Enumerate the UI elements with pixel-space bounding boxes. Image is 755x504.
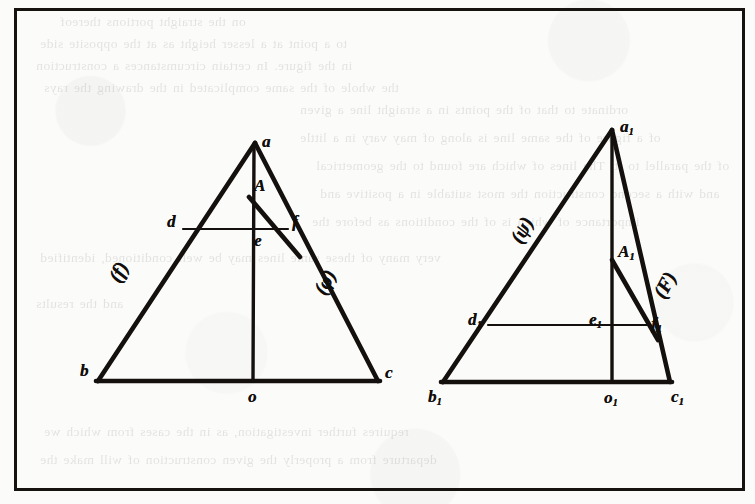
label-point-d1-sub: 1: [477, 319, 482, 330]
label-point-e1-sub: 1: [597, 319, 602, 330]
label-point-o1: o1: [604, 389, 618, 409]
label-point-o1-sub: 1: [613, 397, 618, 408]
label-point-A1: A1: [618, 243, 634, 263]
label-point-d1: d1: [468, 311, 482, 331]
label-point-c: c: [385, 364, 393, 381]
label-point-A1-sub: 1: [629, 251, 634, 262]
label-point-b: b: [80, 362, 89, 379]
label-point-c1-sub: 1: [679, 396, 684, 407]
label-point-A1-base: A: [618, 242, 629, 261]
label-point-f1: f1: [651, 315, 662, 335]
label-point-f1-sub: 1: [657, 323, 662, 334]
label-point-a1-sub: 1: [629, 126, 634, 137]
label-point-a: a: [262, 133, 271, 150]
label-point-c1-base: c: [671, 387, 679, 406]
label-point-e1: e1: [589, 311, 602, 331]
label-point-e: e: [254, 232, 262, 249]
label-point-A: A: [254, 177, 265, 194]
figure-frame: [14, 8, 745, 491]
label-point-e1-base: e: [589, 310, 597, 329]
label-point-b1-sub: 1: [437, 396, 442, 407]
scanned-page: on the straight portions thereof to a po…: [0, 0, 755, 504]
label-point-o: o: [248, 388, 257, 405]
label-point-d1-base: d: [468, 310, 477, 329]
label-point-o1-base: o: [604, 388, 613, 407]
label-point-f: f: [292, 213, 298, 230]
label-point-d: d: [167, 213, 176, 230]
label-point-a1-base: a: [620, 117, 629, 136]
label-point-c1: c1: [671, 388, 684, 408]
label-point-a1: a1: [620, 118, 634, 138]
label-point-b1: b1: [428, 388, 442, 408]
label-point-b1-base: b: [428, 387, 437, 406]
